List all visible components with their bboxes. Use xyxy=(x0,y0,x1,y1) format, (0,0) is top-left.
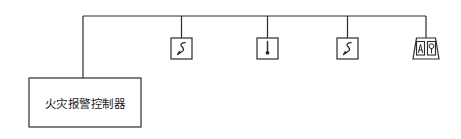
device-heat-detector xyxy=(257,38,278,59)
heat-detector-dot xyxy=(266,51,270,55)
fire-alarm-diagram-canvas: 火灾报警控制器 xyxy=(0,0,461,139)
device-smoke-detector-2 xyxy=(337,38,358,59)
control-panel-box xyxy=(29,78,141,127)
smoke-detector-1-box xyxy=(171,38,192,59)
diagram-svg xyxy=(0,0,461,139)
manual-call-point-left-cell xyxy=(417,42,425,56)
device-manual-call-point-module xyxy=(413,38,439,59)
smoke-detector-2-box xyxy=(337,38,358,59)
device-smoke-detector-1 xyxy=(171,38,192,59)
